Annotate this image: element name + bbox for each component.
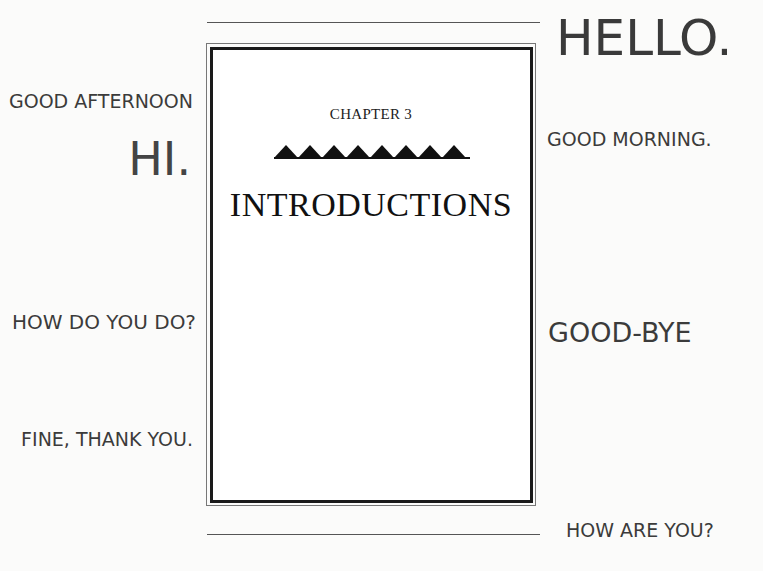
chapter-page: CHAPTER 3 (206, 0, 536, 571)
phrase-hi: HI. (128, 136, 191, 182)
phrase-good-afternoon: GOOD AFTERNOON (9, 92, 193, 111)
phrase-hello: HELLO. (556, 13, 732, 63)
chapter-title: INTRODUCTIONS (206, 186, 536, 224)
phrase-good-bye: GOOD-BYE (548, 319, 692, 346)
triangle-ornament (274, 143, 470, 158)
chapter-label: CHAPTER 3 (206, 106, 536, 123)
phrase-how-do-you-do: HOW DO YOU DO? (12, 312, 196, 332)
ornament-baseline (274, 157, 470, 159)
phrase-fine-thank-you: FINE, THANK YOU. (21, 430, 193, 449)
phrase-how-are-you: HOW ARE YOU? (566, 521, 714, 540)
phrase-good-morning: GOOD MORNING. (547, 130, 712, 149)
